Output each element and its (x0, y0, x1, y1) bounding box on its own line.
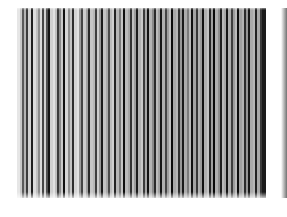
bottom-edge-fade (17, 192, 287, 200)
striped-pattern-photo (17, 8, 287, 198)
stripe (262, 8, 266, 198)
right-edge-shadow (281, 8, 287, 198)
top-edge-fade (17, 6, 287, 10)
